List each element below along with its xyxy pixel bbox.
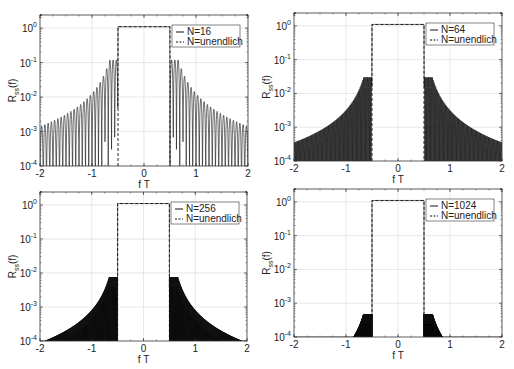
x-tick-label: 2 [499, 163, 505, 174]
figure: -2-101210010-110-210-310-4f TRss(f)N=16N… [0, 0, 514, 369]
x-tick-label: 0 [395, 339, 401, 350]
y-tick-label: 10-3 [274, 120, 291, 133]
y-tick-label: 10-4 [20, 334, 37, 347]
y-tick-label: 10-2 [274, 86, 291, 99]
y-tick-label: 10-4 [274, 330, 291, 343]
x-tick-label: 1 [447, 163, 453, 174]
x-tick-label: 2 [245, 168, 251, 179]
y-axis-label: Rss(f) [7, 255, 20, 279]
y-axis-label: Rss(f) [261, 251, 274, 275]
legend: N=1024N=unendlich [426, 199, 497, 221]
chart-panel-bottom-left: -2-101210010-110-210-310-4f TRss(f)N=256… [7, 192, 250, 365]
y-tick-label: 10-3 [20, 300, 37, 313]
chart-panel-top-right: -2-101210010-110-210-310-4f TRss(f)N=64N… [261, 13, 505, 185]
y-axis-label: Rss(f) [7, 79, 20, 103]
y-tick-label: 10-4 [274, 154, 291, 167]
x-axis-label: f T [138, 179, 149, 190]
x-axis-label: f T [392, 350, 403, 361]
y-tick-label: 10-1 [274, 229, 291, 242]
y-tick-label: 10-2 [20, 266, 37, 279]
legend: N=256N=unendlich [171, 202, 242, 224]
legend-entry-n-unendlich: N=unendlich [186, 213, 242, 224]
legend-entry-n-unendlich: N=unendlich [441, 34, 497, 45]
x-tick-label: -1 [342, 163, 351, 174]
legend: N=16N=unendlich [172, 25, 243, 47]
y-tick-label: 100 [276, 19, 291, 32]
x-tick-label: -2 [290, 163, 299, 174]
legend-entry-n-unendlich: N=unendlich [441, 210, 497, 221]
x-tick-label: -1 [87, 343, 96, 354]
x-axis-label: f T [392, 174, 403, 185]
legend-entry-n-unendlich: N=unendlich [187, 36, 243, 47]
x-tick-label: 2 [244, 343, 250, 354]
chart-panel-top-left: -2-101210010-110-210-310-4f TRss(f)N=16N… [7, 15, 251, 190]
x-tick-label: 1 [192, 343, 198, 354]
y-tick-label: 100 [22, 198, 37, 211]
y-tick-label: 100 [22, 21, 37, 34]
y-tick-label: 10-1 [274, 53, 291, 66]
x-tick-label: 1 [193, 168, 199, 179]
y-tick-label: 10-1 [20, 232, 37, 245]
chart-panel-bottom-right: -2-101210010-110-210-310-4f TRss(f)N=102… [261, 189, 505, 361]
y-tick-label: 10-4 [20, 159, 37, 172]
x-tick-label: -2 [290, 339, 299, 350]
y-tick-label: 10-1 [20, 56, 37, 69]
x-tick-label: 0 [395, 163, 401, 174]
x-tick-label: -2 [36, 343, 45, 354]
y-tick-label: 10-2 [20, 90, 37, 103]
x-tick-label: 0 [141, 168, 147, 179]
x-tick-label: -1 [88, 168, 97, 179]
y-tick-label: 10-2 [274, 262, 291, 275]
x-tick-label: -2 [36, 168, 45, 179]
y-tick-label: 10-3 [20, 125, 37, 138]
y-tick-label: 100 [276, 195, 291, 208]
x-tick-label: -1 [342, 339, 351, 350]
x-tick-label: 0 [141, 343, 147, 354]
legend: N=64N=unendlich [426, 23, 497, 45]
y-tick-label: 10-3 [274, 296, 291, 309]
x-tick-label: 2 [499, 339, 505, 350]
x-axis-label: f T [138, 354, 149, 365]
x-tick-label: 1 [447, 339, 453, 350]
y-axis-label: Rss(f) [261, 75, 274, 99]
